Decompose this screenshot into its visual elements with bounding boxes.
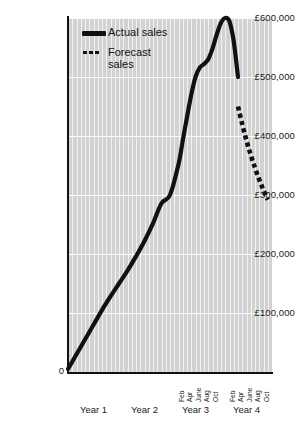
forecast-sales-line: [238, 107, 268, 200]
legend-label-actual-sales: Actual sales: [108, 26, 167, 39]
x-axis-month-labels: FebAprJuneAugOctFebAprJuneAugOct: [68, 374, 272, 404]
x-axis-year-label: Year 1: [68, 404, 119, 415]
x-axis-month-label: June: [246, 388, 253, 402]
x-axis-year-label: Year 2: [119, 404, 170, 415]
solid-line-key-icon: [82, 26, 108, 36]
y-axis-tick-label: £200,000: [231, 249, 295, 259]
y-axis-origin-label: 0: [48, 366, 64, 376]
y-axis-tick-label: £100,000: [231, 308, 295, 318]
x-axis-month-label: Apr: [237, 392, 244, 402]
chart-legend: Actual sales Forecast sales: [82, 26, 167, 78]
x-axis-month-label: Aug: [254, 390, 261, 402]
y-axis-tick-label: £400,000: [231, 131, 295, 141]
y-axis-tick-label: £300,000: [231, 190, 295, 200]
y-axis-tick-label: £500,000: [231, 72, 295, 82]
legend-item-forecast-sales: Forecast sales: [82, 46, 167, 71]
y-axis-line: [67, 16, 69, 374]
x-axis-month-label: June: [195, 388, 202, 402]
x-axis-month-label: Apr: [186, 392, 193, 402]
x-axis-year-labels: Year 1Year 2Year 3Year 4: [68, 404, 272, 420]
x-axis-month-label: Feb: [229, 391, 236, 402]
sales-line-chart: £600,000£500,000£400,000£300,000£200,000…: [0, 0, 295, 428]
legend-item-actual-sales: Actual sales: [82, 26, 167, 39]
x-axis-month-label: Aug: [203, 390, 210, 402]
legend-label-forecast-sales: Forecast sales: [108, 46, 151, 71]
x-axis-year-label: Year 4: [221, 404, 272, 415]
legend-label-forecast-line2: sales: [108, 58, 151, 71]
x-axis-month-label: Oct: [212, 392, 219, 402]
dotted-line-key-icon: [82, 46, 108, 55]
x-axis-month-label: Feb: [178, 391, 185, 402]
x-axis-month-label: Oct: [263, 392, 270, 402]
y-axis-tick-label: £600,000: [231, 13, 295, 23]
x-axis-year-label: Year 3: [170, 404, 221, 415]
legend-label-forecast-line1: Forecast: [108, 46, 151, 59]
